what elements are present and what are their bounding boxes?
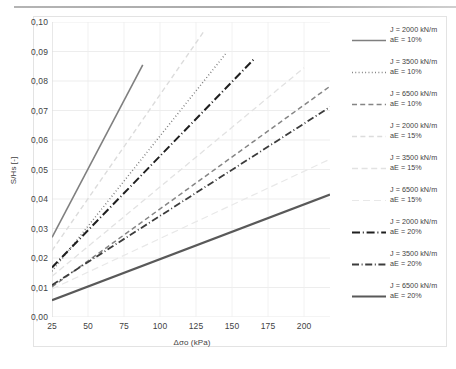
legend-line-sample xyxy=(352,223,386,232)
series-line xyxy=(52,86,330,287)
legend-label-line1: J = 3500 kN/m xyxy=(390,57,454,67)
legend-label-line1: J = 6500 kN/m xyxy=(390,281,454,291)
legend-label-line1: J = 2000 kN/m xyxy=(390,217,454,227)
legend-label-line2: aE = 20% xyxy=(390,259,454,269)
series-line xyxy=(52,107,330,285)
legend-label-line2: aE = 15% xyxy=(390,195,454,205)
legend-label-line2: aE = 15% xyxy=(390,163,454,173)
legend-label-line2: aE = 15% xyxy=(390,131,454,141)
series-line xyxy=(52,58,255,267)
x-tick-label: 100 xyxy=(140,321,180,331)
legend-label: J = 3500 kN/maE = 15% xyxy=(390,153,454,172)
x-tick-label: 25 xyxy=(32,321,72,331)
legend-label-line2: aE = 10% xyxy=(390,67,454,77)
series-line xyxy=(52,53,226,271)
legend-label-line1: J = 3500 kN/m xyxy=(390,249,454,259)
legend-line-sample xyxy=(352,31,386,40)
plot-area xyxy=(52,22,330,317)
legend-label: J = 6500 kN/maE = 10% xyxy=(390,89,454,108)
series-line xyxy=(52,65,143,238)
legend-item[interactable]: J = 3500 kN/maE = 10% xyxy=(352,57,452,89)
series-line xyxy=(52,68,304,277)
plot-svg xyxy=(52,22,330,317)
legend-label: J = 2000 kN/maE = 10% xyxy=(390,25,454,44)
legend-label: J = 3500 kN/maE = 10% xyxy=(390,57,454,76)
legend-item[interactable]: J = 6500 kN/maE = 15% xyxy=(352,185,452,217)
x-tick-label: 175 xyxy=(248,321,288,331)
legend-label: J = 2000 kN/maE = 20% xyxy=(390,217,454,236)
x-tick-label: 200 xyxy=(284,321,324,331)
legend-line-sample xyxy=(352,255,386,264)
series-line xyxy=(52,32,203,250)
legend-item[interactable]: J = 6500 kN/maE = 20% xyxy=(352,281,452,313)
legend-label-line1: J = 6500 kN/m xyxy=(390,89,454,99)
legend-label-line2: aE = 20% xyxy=(390,227,454,237)
legend-line-sample xyxy=(352,127,386,136)
legend-label: J = 3500 kN/maE = 20% xyxy=(390,249,454,268)
x-tick-label: 50 xyxy=(68,321,108,331)
x-axis-title: Δσo (kPa) xyxy=(112,338,272,347)
chart-legend: J = 2000 kN/maE = 10%J = 3500 kN/maE = 1… xyxy=(352,25,452,313)
x-tick-label: 75 xyxy=(104,321,144,331)
legend-label: J = 2000 kN/maE = 15% xyxy=(390,121,454,140)
legend-item[interactable]: J = 2000 kN/maE = 20% xyxy=(352,217,452,249)
legend-item[interactable]: J = 2000 kN/maE = 10% xyxy=(352,25,452,57)
legend-label-line1: J = 2000 kN/m xyxy=(390,25,454,35)
legend-label: J = 6500 kN/maE = 15% xyxy=(390,185,454,204)
legend-label-line2: aE = 10% xyxy=(390,35,454,45)
legend-line-sample xyxy=(352,191,386,200)
legend-line-sample xyxy=(352,63,386,72)
legend-item[interactable]: J = 3500 kN/maE = 15% xyxy=(352,153,452,185)
legend-line-sample xyxy=(352,159,386,168)
series-line xyxy=(52,195,330,301)
legend-item[interactable]: J = 3500 kN/maE = 20% xyxy=(352,249,452,281)
legend-line-sample xyxy=(352,287,386,296)
legend-item[interactable]: J = 6500 kN/maE = 10% xyxy=(352,89,452,121)
x-tick-label: 125 xyxy=(176,321,216,331)
gridlines xyxy=(52,22,330,317)
series-lines xyxy=(52,32,330,300)
legend-item[interactable]: J = 2000 kN/maE = 15% xyxy=(352,121,452,153)
legend-label-line2: aE = 20% xyxy=(390,291,454,301)
chart-figure: S/Hs [-] 0,000,010,020,030,040,050,060,0… xyxy=(0,0,456,369)
legend-label-line1: J = 6500 kN/m xyxy=(390,185,454,195)
legend-label-line1: J = 2000 kN/m xyxy=(390,121,454,131)
x-tick-label: 150 xyxy=(212,321,252,331)
legend-label-line1: J = 3500 kN/m xyxy=(390,153,454,163)
legend-label-line2: aE = 10% xyxy=(390,99,454,109)
legend-line-sample xyxy=(352,95,386,104)
legend-label: J = 6500 kN/maE = 20% xyxy=(390,281,454,300)
